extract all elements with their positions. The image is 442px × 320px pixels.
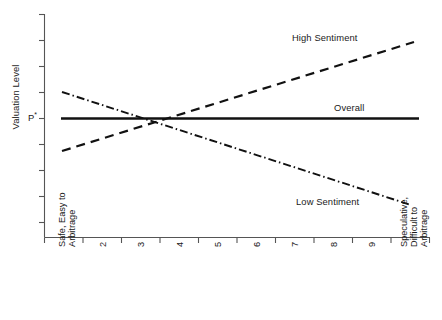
x-tick-label-1-line-1: Safe, Easy to — [57, 97, 67, 247]
chart-container: Valuation Level P* High Sentiment Overal… — [0, 0, 442, 320]
series-label-overall: Overall — [334, 103, 364, 113]
x-tick-label-8: 8 — [329, 242, 339, 247]
x-tick-label-8-line-1: 8 — [329, 242, 339, 247]
x-tick-label-6: 6 — [252, 242, 262, 247]
x-tick-label-10-line-2: Difficult to — [409, 97, 419, 247]
x-tick-label-5-line-1: 5 — [213, 242, 223, 247]
x-tick-label-7: 7 — [290, 242, 300, 247]
x-tick-label-2-line-1: 2 — [98, 242, 108, 247]
series-line-high-sentiment — [62, 42, 414, 151]
series-label-low-sentiment: Low Sentiment — [296, 197, 359, 207]
x-tick-label-5: 5 — [213, 242, 223, 247]
x-tick-label-3-line-1: 3 — [136, 242, 146, 247]
x-tick-label-4-line-1: 4 — [175, 242, 185, 247]
x-tick-label-7-line-1: 7 — [290, 242, 300, 247]
x-tick-label-6-line-1: 6 — [252, 242, 262, 247]
x-tick-label-4: 4 — [175, 242, 185, 247]
x-tick-label-3: 3 — [136, 242, 146, 247]
x-tick-label-2: 2 — [98, 242, 108, 247]
p-star-mark: * — [34, 111, 37, 118]
y-axis-title: Valuation Level — [5, 37, 23, 157]
series-label-high-sentiment: High Sentiment — [292, 33, 358, 43]
x-tick-label-9: 9 — [367, 242, 377, 247]
x-tick-label-1-line-2: Arbitrage — [67, 97, 77, 247]
x-tick-label-10: Speculative, Difficult to Arbitrage — [399, 97, 430, 247]
x-tick-label-1: Safe, Easy to Arbitrage — [57, 97, 77, 247]
y-axis-reference-label: P* — [28, 113, 37, 123]
x-tick-label-9-line-1: 9 — [367, 242, 377, 247]
y-axis-title-text: Valuation Level — [11, 65, 21, 130]
x-tick-label-10-line-3: Arbitrage — [419, 97, 429, 247]
y-axis-ticks — [39, 15, 45, 223]
x-tick-label-10-line-1: Speculative, — [399, 97, 409, 247]
